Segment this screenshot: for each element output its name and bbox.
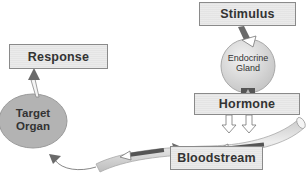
bloodstream-label: Bloodstream [177,151,256,165]
bloodstream-box: Bloodstream [170,146,263,170]
response-box: Response [9,44,108,69]
stimulus-label: Stimulus [220,7,274,21]
gland-label-line2: Gland [221,63,275,73]
target-label-line2: Organ [5,120,61,133]
hormone-label: Hormone [219,97,275,111]
tube-to-organ-arrow [49,154,96,170]
response-label: Response [28,50,89,64]
stimulus-box: Stimulus [199,2,296,26]
target-label-line1: Target [5,107,61,120]
target-organ-label: Target Organ [5,107,61,133]
gland-label-line1: Endocrine [221,53,275,63]
hormone-box: Hormone [194,93,300,115]
organ-to-response-arrow [28,68,40,97]
hormone-release-arrows [222,115,256,133]
endocrine-gland-label: Endocrine Gland [221,53,275,74]
